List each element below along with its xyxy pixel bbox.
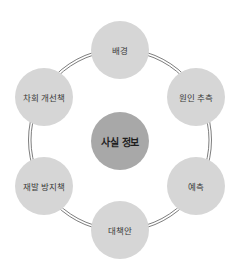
node-label: 배경 xyxy=(112,44,128,56)
node-next-improvement: 차회 개선책 xyxy=(15,68,73,126)
node-label: 재발 방지책 xyxy=(23,180,65,192)
node-background: 배경 xyxy=(91,21,149,79)
node-label: 원인 추측 xyxy=(179,91,213,103)
node-cause-guess: 원인 추측 xyxy=(167,68,225,126)
node-center-facts: 사실 정보 xyxy=(91,112,149,170)
node-countermeasure: 대책안 xyxy=(91,201,149,259)
cycle-diagram: 배경 원인 추측 예측 대책안 재발 방지책 차회 개선책 사실 정보 xyxy=(0,0,239,274)
center-label: 사실 정보 xyxy=(101,134,139,149)
node-label: 예측 xyxy=(188,180,204,192)
node-label: 차회 개선책 xyxy=(23,91,65,103)
node-label: 대책안 xyxy=(108,224,131,236)
node-prediction: 예측 xyxy=(167,157,225,215)
node-recurrence-prevention: 재발 방지책 xyxy=(15,157,73,215)
